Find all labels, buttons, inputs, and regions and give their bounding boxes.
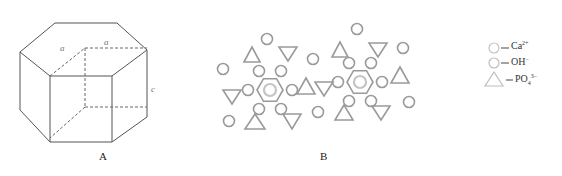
legend-shapes	[485, 43, 513, 86]
legend-ca: Ca2+	[511, 40, 529, 51]
panel-b-label: B	[320, 150, 327, 162]
hexagon-group-2	[333, 58, 388, 107]
legend-po4: PO43−	[515, 73, 537, 86]
edge-label-c: c	[151, 84, 155, 94]
edge-label-a1: a	[60, 43, 65, 53]
hexagonal-prism	[20, 23, 147, 142]
panel-a-label: A	[99, 150, 107, 162]
figure-canvas	[0, 0, 562, 176]
legend-oh: OH−	[511, 56, 529, 67]
edge-label-a2: a	[104, 37, 109, 47]
hexagon-group-1	[243, 66, 298, 115]
ion-arrangement	[218, 24, 415, 130]
